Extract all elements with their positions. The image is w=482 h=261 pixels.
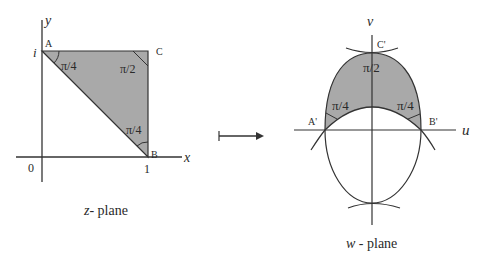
w-angle-b-label: π/4: [397, 98, 414, 113]
maps-to-arrow: [219, 131, 264, 141]
z-y-axis-label: y: [43, 13, 52, 28]
z-plane-caption: z- plane: [83, 203, 128, 218]
z-vertex-c: C: [156, 46, 163, 57]
w-vertex-b: B': [429, 116, 438, 127]
z-angle-b-label: π/4: [126, 123, 141, 137]
z-tick-i-label: i: [33, 45, 37, 60]
z-x-axis-label: x: [183, 150, 191, 165]
z-angle-a-label: π/4: [61, 59, 76, 73]
arrowhead-icon: [256, 132, 264, 140]
conformal-map-diagram: y x 0 1 i A C B π/4 π/2 π/4 z- plane v: [0, 0, 482, 261]
w-angle-c-label: π/2: [363, 60, 380, 75]
w-vertex-a: A': [308, 116, 317, 127]
w-plane-caption: w - plane: [346, 236, 397, 251]
z-tick-1-label: 1: [144, 162, 150, 176]
w-u-axis-label: u: [462, 122, 470, 138]
z-vertex-b: B: [151, 149, 158, 160]
w-arc-bottom: [348, 204, 400, 209]
z-origin-label: 0: [28, 161, 34, 175]
w-vertex-c: C': [377, 39, 386, 50]
w-angle-a-label: π/4: [332, 98, 349, 113]
z-angle-c-label: π/2: [120, 62, 135, 76]
z-vertex-a: A: [45, 38, 53, 49]
z-plane: y x 0 1 i A C B π/4 π/2 π/4 z- plane: [16, 13, 191, 218]
w-v-axis-label: v: [367, 14, 374, 29]
w-plane: v u C' A' B' π/2 π/4 π/4 w - plane: [294, 14, 470, 251]
